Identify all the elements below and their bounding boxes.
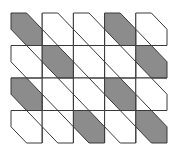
shaded-band: [11, 78, 42, 111]
tile-cell: [42, 78, 73, 111]
diagonal-tile-figure: [0, 0, 182, 160]
white-band: [11, 111, 42, 144]
tile-cell: [11, 13, 42, 46]
tile-cell: [11, 111, 42, 144]
tile-cell: [105, 46, 136, 79]
white-band: [42, 13, 73, 46]
tile-cell: [105, 78, 136, 111]
shaded-band: [11, 13, 42, 46]
shaded-band: [105, 78, 136, 111]
tile-cell: [73, 13, 104, 46]
white-band: [11, 46, 42, 79]
tile-cell: [42, 111, 73, 144]
white-band: [73, 78, 104, 111]
white-band: [136, 78, 167, 111]
tile-cell: [11, 78, 42, 111]
tile-cell: [11, 46, 42, 79]
shaded-band: [73, 111, 104, 144]
white-band: [105, 46, 136, 79]
tile-cell: [105, 13, 136, 46]
white-band: [105, 111, 136, 144]
tile-cell: [73, 78, 104, 111]
white-band: [136, 13, 167, 46]
shaded-band: [136, 46, 167, 79]
tile-grid-diagram: [0, 0, 182, 160]
tile-cell: [136, 111, 167, 144]
tile-cell: [136, 13, 167, 46]
shaded-band: [105, 13, 136, 46]
tile-cell: [136, 78, 167, 111]
white-band: [73, 46, 104, 79]
shaded-band: [136, 111, 167, 144]
tile-cell: [42, 46, 73, 79]
shaded-band: [42, 46, 73, 79]
tile-cell: [73, 111, 104, 144]
tile-cell: [136, 46, 167, 79]
tile-cell: [73, 46, 104, 79]
tile-cell: [42, 13, 73, 46]
white-band: [42, 111, 73, 144]
tile-cell: [105, 111, 136, 144]
white-band: [42, 78, 73, 111]
white-band: [73, 13, 104, 46]
